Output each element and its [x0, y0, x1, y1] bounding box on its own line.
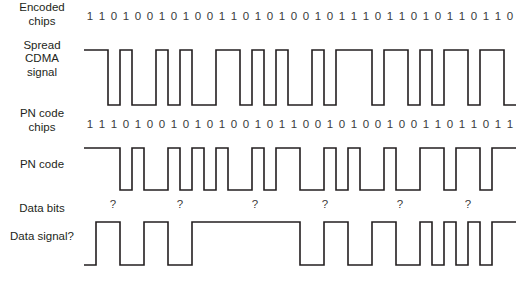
chip-digit: 1: [315, 10, 321, 22]
chip-digit: 1: [111, 118, 117, 130]
chip-digit: 1: [483, 10, 489, 22]
chip-digit: 1: [459, 10, 465, 22]
chip-digit: 1: [363, 10, 369, 22]
unknown-data-bit-mark: ?: [397, 198, 403, 210]
chip-digit: 0: [411, 10, 417, 22]
chip-digit: 1: [387, 118, 393, 130]
chip-digit: 1: [507, 118, 513, 130]
waveform-pn-code: [84, 148, 516, 190]
cdma-signal-diagram: EncodedchipsSpreadCDMAsignalPN codechips…: [0, 0, 523, 283]
chip-digit: 0: [507, 10, 513, 22]
row-label-data-signal: Data signal?: [10, 230, 74, 242]
unknown-data-bit-mark: ?: [110, 198, 116, 210]
chip-digit: 1: [471, 118, 477, 130]
chip-digit: 0: [315, 118, 321, 130]
chip-digit: 0: [243, 118, 249, 130]
chip-digit: 0: [159, 118, 165, 130]
chip-digit: 1: [159, 10, 165, 22]
chip-digit: 0: [339, 118, 345, 130]
row-label-spread-cdma-signal: SpreadCDMAsignal: [23, 39, 60, 78]
row-labels-group: EncodedchipsSpreadCDMAsignalPN codechips…: [10, 1, 74, 242]
chip-digit: 1: [195, 118, 201, 130]
chip-sequences-group: 1101001010011010100101110110101101101110…: [87, 10, 513, 130]
row-label-pn-code: PN code: [20, 158, 64, 170]
chip-digit: 1: [219, 118, 225, 130]
chip-digit: 0: [447, 118, 453, 130]
chip-digit: 0: [231, 118, 237, 130]
chip-digit: 0: [207, 118, 213, 130]
chip-digit: 1: [279, 10, 285, 22]
chip-digit: 1: [99, 118, 105, 130]
chip-digit: 1: [387, 10, 393, 22]
chip-digit: 0: [135, 10, 141, 22]
chip-digit: 0: [243, 10, 249, 22]
chip-digit: 0: [111, 10, 117, 22]
chip-digit: 0: [375, 118, 381, 130]
chip-digit: 0: [267, 10, 273, 22]
chip-digit: 0: [327, 10, 333, 22]
chip-digit: 1: [399, 10, 405, 22]
chip-digit: 0: [483, 118, 489, 130]
chip-digit: 1: [495, 10, 501, 22]
row-label-encoded-chips: Encodedchips: [19, 1, 64, 27]
chip-digit: 1: [339, 10, 345, 22]
unknown-data-bit-mark: ?: [465, 198, 471, 210]
chip-digit: 1: [435, 118, 441, 130]
chip-digit: 1: [279, 118, 285, 130]
chip-digit: 1: [459, 118, 465, 130]
row-label-pn-code-chips: PN codechips: [20, 107, 64, 133]
waveform-data-signal: [84, 222, 516, 265]
unknown-data-bit-mark: ?: [252, 198, 258, 210]
chip-digit: 0: [399, 118, 405, 130]
waveform-spread-cdma-signal: [84, 50, 516, 105]
chip-digit: 0: [267, 118, 273, 130]
chip-digit: 0: [171, 10, 177, 22]
chip-digit: 0: [147, 118, 153, 130]
chip-digit: 0: [291, 10, 297, 22]
chip-digit: 1: [219, 10, 225, 22]
chip-digit: 1: [327, 118, 333, 130]
chip-digit: 0: [363, 118, 369, 130]
chip-digit: 1: [183, 10, 189, 22]
chip-digit: 1: [231, 10, 237, 22]
chip-digit: 0: [435, 10, 441, 22]
chip-digit: 0: [147, 10, 153, 22]
chip-digit: 1: [495, 118, 501, 130]
waveforms-group: [84, 50, 516, 265]
chip-digit: 0: [303, 118, 309, 130]
chip-digit: 1: [123, 10, 129, 22]
chip-digit: 0: [303, 10, 309, 22]
chip-digit: 1: [351, 118, 357, 130]
chip-digit: 0: [207, 10, 213, 22]
chip-digit: 1: [255, 118, 261, 130]
chip-digit: 0: [183, 118, 189, 130]
chip-digit: 1: [351, 10, 357, 22]
chip-digit: 1: [99, 10, 105, 22]
row-label-data-bits: Data bits: [19, 202, 65, 214]
chip-digit: 0: [375, 10, 381, 22]
chip-digit: 0: [195, 10, 201, 22]
chip-digit: 1: [255, 10, 261, 22]
chip-digit: 0: [411, 118, 417, 130]
chip-digit: 1: [87, 10, 93, 22]
chip-digit: 1: [135, 118, 141, 130]
chip-digit: 1: [87, 118, 93, 130]
chip-digit: 1: [291, 118, 297, 130]
chip-digit: 1: [447, 10, 453, 22]
chip-digit: 0: [471, 10, 477, 22]
chip-digit: 1: [423, 118, 429, 130]
chip-digit: 1: [423, 10, 429, 22]
unknown-data-bit-mark: ?: [322, 198, 328, 210]
chip-digit: 1: [171, 118, 177, 130]
chip-digit: 0: [123, 118, 129, 130]
data-bit-marks-group: ??????: [110, 198, 471, 210]
unknown-data-bit-mark: ?: [177, 198, 183, 210]
